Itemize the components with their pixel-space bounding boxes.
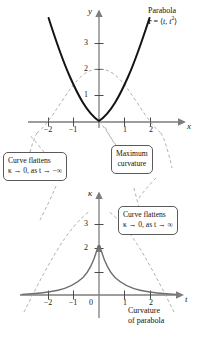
callout-max-line1: Maximum: [116, 149, 148, 159]
parabola-dashed-tail-right: [161, 133, 172, 168]
leader-left-flattens: [29, 134, 44, 152]
parabola-xtick-2: 2: [143, 125, 159, 134]
curvature-kappatick-2: 2: [78, 243, 94, 252]
curvature-ttick--1: −1: [65, 298, 81, 307]
curvature-ttick--2: −2: [40, 298, 56, 307]
parabola-plot: [26, 10, 186, 169]
curvature-kappatick-3: 3: [78, 219, 94, 228]
figure-caption-line2: of parabola: [128, 316, 164, 326]
curvature-t-axis-label: t: [185, 294, 188, 304]
callout-curve-flattens-right: Curve flattens κ → 0, as t → ∞: [118, 206, 178, 235]
callout-right-line2: κ → 0, as t → ∞: [123, 220, 173, 230]
callout-left-line1: Curve flattens: [8, 156, 62, 166]
parabola-xtick--1: −1: [65, 125, 81, 134]
curvature-ttick-0: 0: [83, 298, 99, 307]
parabola-ytick-2: 2: [78, 64, 94, 73]
curvature-of-parabola-figure: y x −2 −1 1 2 1 2 3 Parabola r = ⟨t, t2⟩…: [0, 0, 207, 345]
parabola-annotation-line2: r = ⟨t, t2⟩: [148, 17, 177, 28]
parabola-xtick--2: −2: [40, 125, 56, 134]
parabola-x-axis-label: x: [187, 121, 191, 131]
callout-maximum-curvature: Maximum curvature: [111, 145, 153, 174]
figure-caption: Curvature of parabola: [128, 306, 164, 327]
parabola-annotation: Parabola r = ⟨t, t2⟩: [148, 6, 177, 28]
callout-right-line1: Curve flattens: [123, 210, 173, 220]
leader-right-flattens: [139, 177, 157, 198]
callout-max-line2: curvature: [116, 159, 148, 169]
leader-max-curvature: [105, 127, 116, 145]
figure-caption-line1: Curvature: [128, 306, 164, 316]
parabola-ytick-3: 3: [78, 38, 94, 47]
curvature-kappa-axis-label: κ: [88, 188, 92, 198]
parabola-y-axis-label: y: [88, 6, 92, 16]
parabola-equation-close: ⟩: [174, 17, 177, 26]
parabola-equation-equals: = ⟨: [152, 17, 164, 26]
callout-curve-flattens-left: Curve flattens κ → 0, as t → −∞: [3, 152, 67, 181]
parabola-xtick-1: 1: [117, 125, 133, 134]
callout-left-line2: κ → 0, as t → −∞: [8, 166, 62, 176]
parabola-ytick-1: 1: [78, 90, 94, 99]
leader-left-down: [40, 186, 56, 220]
